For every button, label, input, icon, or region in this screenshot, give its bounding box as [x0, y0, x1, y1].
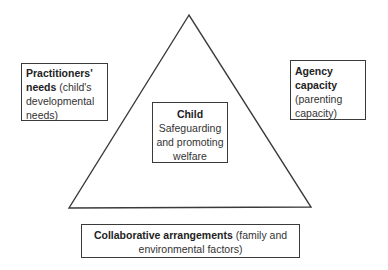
child-detail-line2: and promoting: [155, 135, 225, 149]
agency-capacity-title: Agency: [295, 64, 361, 78]
agency-capacity-detail: (parenting: [295, 92, 361, 106]
agency-capacity-box: Agency capacity (parenting capacity): [290, 60, 366, 120]
child-box: Child Safeguarding and promoting welfare: [152, 102, 228, 163]
collaborative-arrangements-box: Collaborative arrangements (family and e…: [81, 224, 300, 258]
collaborative-arrangements-title: Collaborative arrangements (family and: [86, 228, 295, 242]
agency-capacity-title-line2: capacity: [295, 78, 361, 92]
collaborative-arrangements-detail: environmental factors): [86, 242, 295, 256]
practitioners-needs-detail: developmental: [26, 94, 103, 108]
child-detail-line3: welfare: [155, 149, 225, 163]
practitioners-needs-box: Practitioners' needs (child's developmen…: [21, 63, 108, 121]
child-title: Child: [155, 107, 225, 121]
practitioners-needs-title-line2: needs (child's: [26, 80, 103, 94]
child-detail: Safeguarding: [155, 121, 225, 135]
agency-capacity-detail-line2: capacity): [295, 106, 361, 120]
practitioners-needs-detail-line2: needs): [26, 108, 103, 122]
practitioners-needs-title: Practitioners': [26, 66, 103, 80]
